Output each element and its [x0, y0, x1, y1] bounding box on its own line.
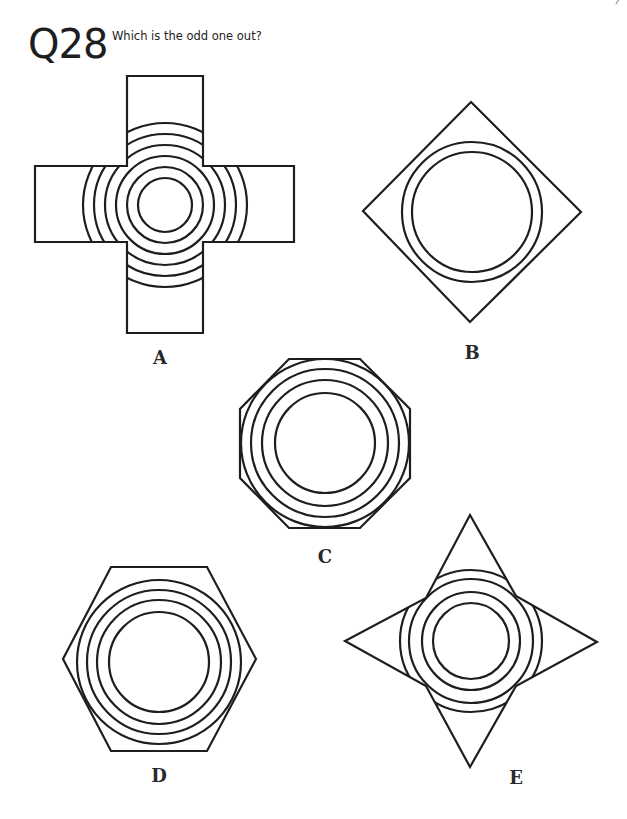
option-label-b: B	[464, 342, 479, 363]
option-label-d: D	[151, 765, 167, 786]
figure-c-octagon[interactable]	[240, 359, 410, 528]
figures-canvas	[0, 0, 627, 819]
figure-d-hexagon[interactable]	[63, 567, 256, 751]
figure-e-star[interactable]	[345, 515, 597, 767]
option-label-c: C	[318, 546, 332, 567]
option-label-e: E	[509, 767, 523, 788]
figure-b-diamond[interactable]	[363, 102, 581, 322]
option-label-a: A	[153, 347, 167, 368]
figure-a-cross[interactable]	[35, 76, 294, 333]
